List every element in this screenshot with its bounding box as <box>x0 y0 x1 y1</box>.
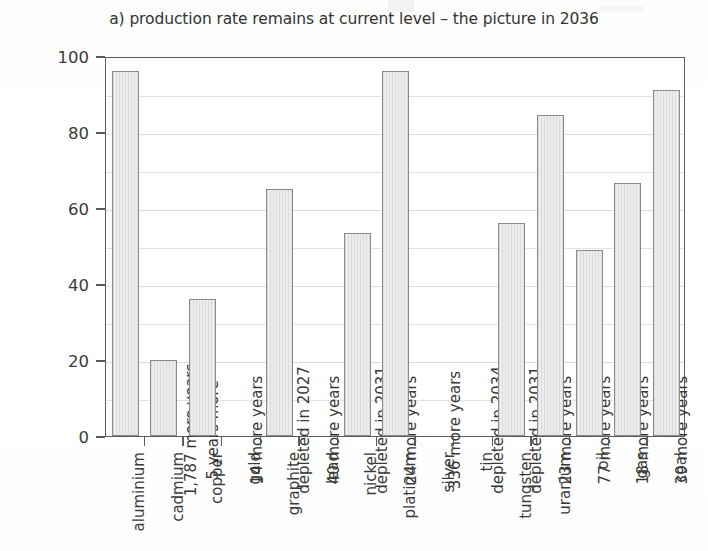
x-axis-tick <box>221 437 222 446</box>
x-axis-tick <box>298 437 299 446</box>
y-axis: 020406080100 <box>0 0 105 494</box>
x-axis-tick <box>646 437 647 446</box>
x-axis-tick <box>453 437 454 446</box>
bar-group[interactable]: depleted in 2027 <box>222 56 261 436</box>
x-axis-tick <box>260 437 261 446</box>
bar-group[interactable]: 336 more years <box>377 56 416 436</box>
y-axis-tick <box>96 284 105 285</box>
x-axis-tick <box>530 437 531 446</box>
bar-group[interactable]: 23 more years <box>493 56 532 436</box>
y-axis-tick-label: 40 <box>43 276 89 295</box>
x-axis-tick <box>414 437 415 446</box>
plot-area: 1,787 more years5 years more14 more year… <box>105 57 685 437</box>
bar-group[interactable]: depleted in 2031 <box>299 56 338 436</box>
bar[interactable] <box>537 115 564 436</box>
bar-group[interactable]: 40 more years <box>261 56 300 436</box>
bar-group[interactable]: 39 more years <box>609 56 648 436</box>
bar-group[interactable]: 5 years more <box>145 56 184 436</box>
bar[interactable] <box>382 71 409 436</box>
x-axis-tick <box>569 437 570 446</box>
y-axis-tick-label: 0 <box>43 428 89 447</box>
y-axis-tick <box>96 132 105 133</box>
bar[interactable] <box>576 250 603 436</box>
x-axis-tick <box>337 437 338 446</box>
chart-title: a) production rate remains at current le… <box>0 10 708 28</box>
bar-group[interactable]: 77 more years <box>531 56 570 436</box>
x-axis-tick <box>182 437 183 446</box>
bar[interactable] <box>344 233 371 436</box>
bar[interactable] <box>614 183 641 436</box>
bar-group[interactable]: depleted in 2031 <box>454 56 493 436</box>
x-axis-tick <box>492 437 493 446</box>
y-axis-tick-label: 20 <box>43 352 89 371</box>
bar-group[interactable]: 14 more years <box>183 56 222 436</box>
bar[interactable] <box>653 90 680 436</box>
y-axis-tick <box>96 360 105 361</box>
bar-group[interactable]: 24 more years <box>338 56 377 436</box>
bar-group[interactable]: 101 more years <box>647 56 686 436</box>
y-axis-tick <box>96 436 105 437</box>
y-axis-tick-label: 80 <box>43 124 89 143</box>
y-axis-tick <box>96 208 105 209</box>
x-axis-tick <box>608 437 609 446</box>
y-axis-tick-label: 100 <box>43 48 89 67</box>
bar-group[interactable]: depleted in 2034 <box>415 56 454 436</box>
y-axis-tick <box>96 56 105 57</box>
bar-group[interactable]: 18 more years <box>570 56 609 436</box>
y-axis-tick-label: 60 <box>43 200 89 219</box>
x-axis-tick <box>376 437 377 446</box>
x-axis-tick <box>144 437 145 446</box>
